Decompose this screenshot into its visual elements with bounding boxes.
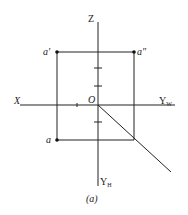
origin-label: O: [88, 95, 95, 105]
point-a-prime-label: a′: [43, 47, 50, 57]
point-a-double-prime-label: a″: [137, 47, 146, 57]
x-axis-label: X: [14, 96, 20, 106]
point-a-double-prime: [132, 50, 136, 54]
yw-axis-label: YW: [159, 96, 172, 107]
figure-caption: (a): [86, 194, 98, 204]
point-a-prime: [55, 50, 59, 54]
point-a-label: a: [46, 135, 51, 145]
point-a: [55, 138, 59, 142]
z-axis-label: Z: [88, 14, 94, 24]
yh-axis-label: YH: [100, 177, 112, 188]
projection-diagram: [0, 0, 188, 215]
